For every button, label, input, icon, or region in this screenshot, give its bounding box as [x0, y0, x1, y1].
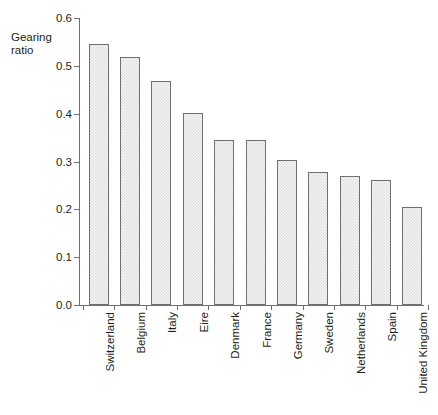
x-axis-label: Eire: [198, 312, 210, 332]
x-tick: [114, 305, 115, 310]
y-tick: [74, 209, 80, 210]
bar: [340, 176, 360, 305]
y-tick-label: 0.0: [56, 299, 72, 311]
gearing-ratio-bar-chart: Gearing ratio 0.00.10.20.30.40.50.6 Swit…: [0, 0, 438, 415]
bar: [214, 140, 234, 305]
x-tick: [146, 305, 147, 310]
bar: [151, 81, 171, 305]
x-tick: [303, 305, 304, 310]
x-axis-label: Belgium: [135, 312, 147, 354]
x-tick: [83, 305, 84, 310]
y-tick: [74, 257, 80, 258]
x-axis-label: Netherlands: [355, 312, 367, 374]
x-tick: [365, 305, 366, 310]
y-tick-label: 0.2: [56, 203, 72, 215]
bar: [89, 44, 109, 305]
y-tick-label: 0.3: [56, 156, 72, 168]
x-axis-label: Spain: [386, 312, 398, 341]
y-tick-label: 0.4: [56, 108, 72, 120]
bar: [183, 113, 203, 305]
y-tick: [74, 162, 80, 163]
x-axis-label: Sweden: [323, 312, 335, 354]
bar: [277, 160, 297, 305]
y-tick: [74, 114, 80, 115]
x-tick: [428, 305, 429, 310]
bar: [371, 180, 391, 305]
x-axis-label: Switzerland: [104, 312, 116, 371]
y-tick: [74, 18, 80, 19]
plot-area: [79, 18, 424, 305]
bar: [402, 207, 422, 305]
x-tick: [240, 305, 241, 310]
bar: [308, 172, 328, 305]
x-axis-label: United Kingdom: [417, 312, 429, 394]
x-axis-label: Germany: [292, 312, 304, 359]
x-tick: [177, 305, 178, 310]
x-axis-line: [79, 305, 424, 306]
y-tick-label: 0.1: [56, 251, 72, 263]
x-tick: [334, 305, 335, 310]
y-tick: [74, 66, 80, 67]
y-axis-tick-labels: 0.00.10.20.30.40.50.6: [0, 18, 72, 305]
y-tick-label: 0.6: [56, 12, 72, 24]
x-axis-label: Italy: [166, 312, 178, 333]
x-axis-label: Denmark: [229, 312, 241, 359]
x-axis-label: France: [261, 312, 273, 348]
x-tick: [208, 305, 209, 310]
x-tick: [271, 305, 272, 310]
bar: [246, 140, 266, 305]
bar: [120, 57, 140, 305]
x-tick: [397, 305, 398, 310]
x-axis-category-labels: SwitzerlandBelgiumItalyEireDenmarkFrance…: [79, 312, 424, 412]
y-tick-label: 0.5: [56, 60, 72, 72]
y-tick: [74, 305, 80, 306]
